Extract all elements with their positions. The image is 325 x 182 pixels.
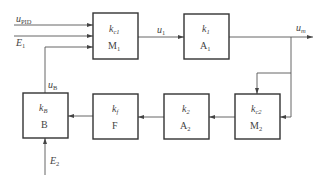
block-m1: kc1 M1 <box>93 13 138 59</box>
block-f: kf F <box>93 94 138 139</box>
signal-label-ub: uB <box>48 79 58 91</box>
block-a1: k1 A1 <box>184 14 229 59</box>
signal-label-um: um <box>296 22 306 34</box>
signal-label-u1: u1 <box>157 24 165 36</box>
svg-text:F: F <box>112 120 118 131</box>
signal-label-upid: uPID <box>16 13 32 25</box>
signal-label-e2: E2 <box>49 155 59 167</box>
svg-text:B: B <box>41 119 48 130</box>
block-diagram: kc1 M1 k1 A1 kc2 M2 k2 A2 kf F kB B uPID… <box>0 0 325 182</box>
signal-label-e1: E1 <box>15 37 25 49</box>
wire-branch-to-m2-top <box>257 73 291 94</box>
block-m2: kc2 M2 <box>235 94 280 139</box>
block-b: kB B <box>23 93 68 138</box>
block-a2: k2 A2 <box>164 94 209 139</box>
